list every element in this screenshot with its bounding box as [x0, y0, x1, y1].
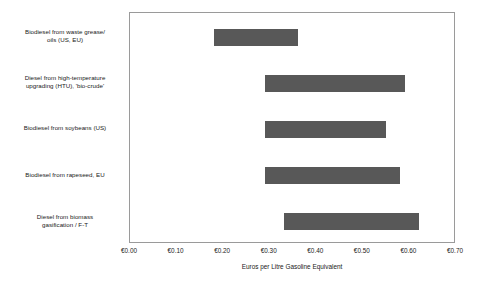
- bar-range: [265, 75, 405, 92]
- x-tick-label: €0.60: [382, 246, 434, 255]
- category-label: Biodiesel from rapeseed, EU: [4, 171, 126, 179]
- category-axis-labels: Biodiesel from waste grease/oils (US, EU…: [4, 12, 126, 243]
- bar-range: [265, 121, 386, 138]
- x-tick-label: €0.00: [103, 246, 155, 255]
- plot-area: [129, 12, 455, 243]
- x-tick-label: €0.40: [289, 246, 341, 255]
- x-axis-tick-labels: €0.00€0.10€0.20€0.30€0.40€0.50€0.60€0.70: [129, 246, 455, 258]
- x-tick-label: €0.20: [196, 246, 248, 255]
- range-bar-chart: Biodiesel from waste grease/oils (US, EU…: [0, 0, 490, 290]
- bar-range: [265, 167, 400, 184]
- category-label: Biodiesel from waste grease/oils (US, EU…: [4, 28, 126, 45]
- bar-range: [214, 29, 298, 46]
- category-label-line: Biodiesel from soybeans (US): [4, 124, 126, 132]
- bars-container: [130, 13, 454, 242]
- category-label-line: Diesel from high-temperature: [4, 74, 126, 82]
- category-label-line: upgrading (HTU), 'bio-crude': [4, 82, 126, 90]
- x-tick-label: €0.30: [243, 246, 295, 255]
- category-label: Diesel from high-temperatureupgrading (H…: [4, 74, 126, 91]
- bar-range: [284, 213, 419, 230]
- x-tick-label: €0.70: [429, 246, 481, 255]
- category-label-line: oils (US, EU): [4, 36, 126, 44]
- category-label-line: Biodiesel from waste grease/: [4, 28, 126, 36]
- category-label: Diesel from biomassgasification / F-T: [4, 213, 126, 230]
- category-label-line: Biodiesel from rapeseed, EU: [4, 171, 126, 179]
- category-label-line: Diesel from biomass: [4, 213, 126, 221]
- x-axis-title: Euros per Litre Gasoline Equivalent: [129, 262, 455, 271]
- x-tick-label: €0.50: [336, 246, 388, 255]
- x-tick-label: €0.10: [150, 246, 202, 255]
- category-label: Biodiesel from soybeans (US): [4, 124, 126, 132]
- category-label-line: gasification / F-T: [4, 221, 126, 229]
